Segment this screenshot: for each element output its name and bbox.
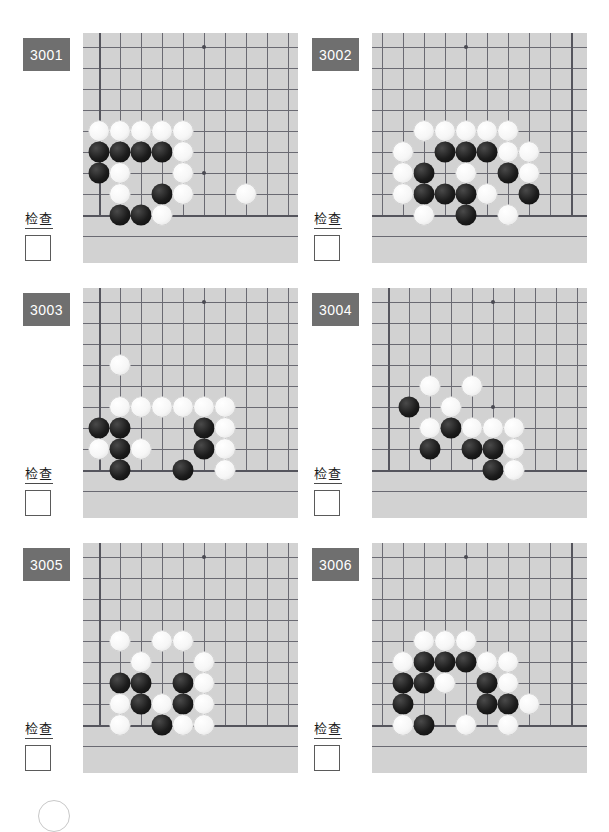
go-board[interactable]	[372, 543, 587, 773]
white-stone[interactable]	[393, 184, 414, 205]
go-board[interactable]	[83, 33, 298, 263]
black-stone[interactable]	[441, 418, 462, 439]
white-stone[interactable]	[498, 142, 519, 163]
white-stone[interactable]	[194, 715, 215, 736]
white-stone[interactable]	[456, 121, 477, 142]
white-stone[interactable]	[483, 418, 504, 439]
black-stone[interactable]	[456, 184, 477, 205]
white-stone[interactable]	[152, 205, 173, 226]
white-stone[interactable]	[498, 205, 519, 226]
white-stone[interactable]	[152, 694, 173, 715]
go-board[interactable]	[372, 33, 587, 263]
black-stone[interactable]	[110, 460, 131, 481]
black-stone[interactable]	[110, 673, 131, 694]
white-stone[interactable]	[173, 163, 194, 184]
white-stone[interactable]	[414, 205, 435, 226]
black-stone[interactable]	[456, 652, 477, 673]
white-stone[interactable]	[131, 121, 152, 142]
black-stone[interactable]	[194, 418, 215, 439]
white-stone[interactable]	[173, 715, 194, 736]
check-checkbox[interactable]	[314, 490, 340, 516]
white-stone[interactable]	[393, 163, 414, 184]
black-stone[interactable]	[131, 694, 152, 715]
black-stone[interactable]	[173, 673, 194, 694]
black-stone[interactable]	[414, 673, 435, 694]
white-stone[interactable]	[194, 673, 215, 694]
white-stone[interactable]	[110, 355, 131, 376]
white-stone[interactable]	[131, 439, 152, 460]
white-stone[interactable]	[414, 631, 435, 652]
black-stone[interactable]	[89, 163, 110, 184]
white-stone[interactable]	[131, 397, 152, 418]
white-stone[interactable]	[110, 631, 131, 652]
white-stone[interactable]	[420, 376, 441, 397]
black-stone[interactable]	[414, 715, 435, 736]
white-stone[interactable]	[498, 673, 519, 694]
check-checkbox[interactable]	[25, 235, 51, 261]
black-stone[interactable]	[89, 418, 110, 439]
white-stone[interactable]	[215, 460, 236, 481]
white-stone[interactable]	[89, 121, 110, 142]
black-stone[interactable]	[131, 205, 152, 226]
white-stone[interactable]	[498, 121, 519, 142]
white-stone[interactable]	[173, 631, 194, 652]
white-stone[interactable]	[441, 397, 462, 418]
black-stone[interactable]	[519, 184, 540, 205]
black-stone[interactable]	[456, 205, 477, 226]
white-stone[interactable]	[393, 142, 414, 163]
white-stone[interactable]	[504, 439, 525, 460]
white-stone[interactable]	[456, 631, 477, 652]
black-stone[interactable]	[498, 694, 519, 715]
white-stone[interactable]	[173, 121, 194, 142]
white-stone[interactable]	[215, 397, 236, 418]
white-stone[interactable]	[152, 121, 173, 142]
white-stone[interactable]	[498, 652, 519, 673]
black-stone[interactable]	[131, 673, 152, 694]
white-stone[interactable]	[194, 652, 215, 673]
black-stone[interactable]	[399, 397, 420, 418]
white-stone[interactable]	[519, 163, 540, 184]
black-stone[interactable]	[435, 142, 456, 163]
white-stone[interactable]	[462, 418, 483, 439]
white-stone[interactable]	[393, 652, 414, 673]
black-stone[interactable]	[110, 418, 131, 439]
white-stone[interactable]	[152, 631, 173, 652]
go-board[interactable]	[83, 288, 298, 518]
black-stone[interactable]	[414, 184, 435, 205]
black-stone[interactable]	[420, 439, 441, 460]
check-checkbox[interactable]	[314, 235, 340, 261]
white-stone[interactable]	[519, 694, 540, 715]
black-stone[interactable]	[173, 460, 194, 481]
white-stone[interactable]	[435, 673, 456, 694]
white-stone[interactable]	[110, 184, 131, 205]
black-stone[interactable]	[435, 184, 456, 205]
white-stone[interactable]	[194, 694, 215, 715]
white-stone[interactable]	[194, 397, 215, 418]
black-stone[interactable]	[456, 142, 477, 163]
white-stone[interactable]	[477, 121, 498, 142]
white-stone[interactable]	[420, 418, 441, 439]
check-checkbox[interactable]	[25, 490, 51, 516]
white-stone[interactable]	[462, 376, 483, 397]
black-stone[interactable]	[435, 652, 456, 673]
black-stone[interactable]	[152, 142, 173, 163]
black-stone[interactable]	[393, 694, 414, 715]
white-stone[interactable]	[504, 418, 525, 439]
black-stone[interactable]	[477, 694, 498, 715]
black-stone[interactable]	[194, 439, 215, 460]
black-stone[interactable]	[152, 184, 173, 205]
white-stone[interactable]	[414, 121, 435, 142]
black-stone[interactable]	[393, 673, 414, 694]
white-stone[interactable]	[173, 397, 194, 418]
black-stone[interactable]	[110, 142, 131, 163]
check-checkbox[interactable]	[314, 745, 340, 771]
white-stone[interactable]	[215, 418, 236, 439]
black-stone[interactable]	[414, 652, 435, 673]
black-stone[interactable]	[152, 715, 173, 736]
white-stone[interactable]	[110, 397, 131, 418]
white-stone[interactable]	[498, 715, 519, 736]
white-stone[interactable]	[152, 397, 173, 418]
white-stone[interactable]	[393, 715, 414, 736]
white-stone[interactable]	[110, 715, 131, 736]
black-stone[interactable]	[477, 142, 498, 163]
